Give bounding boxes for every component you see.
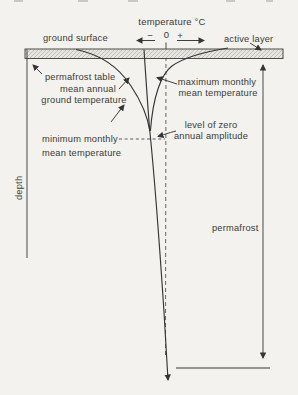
page-crop-marks <box>14 0 273 2</box>
min-monthly-leader-arrow <box>111 105 124 122</box>
zero-label: 0 <box>164 29 169 40</box>
permafrost-table-leader-arrow <box>33 65 42 74</box>
min-monthly-label-line1: minimum monthly <box>42 134 118 144</box>
minus-sign: − <box>147 30 153 41</box>
mean-annual-leader-arrow <box>119 78 129 89</box>
mean-annual-label-line2: ground temperature <box>41 95 126 105</box>
zero-isotherm-dashed-line <box>166 50 167 355</box>
level-zero-label-line1: level of zero <box>185 120 238 130</box>
permafrost-label: permafrost <box>212 223 259 233</box>
temperature-axis-title: temperature °C <box>138 16 205 27</box>
min-monthly-label-line2: mean temperature <box>42 148 121 158</box>
active-layer-label: active layer <box>224 34 273 44</box>
ground-surface-label: ground surface <box>43 33 108 43</box>
mean-annual-label-line1: mean annual <box>60 84 116 94</box>
max-monthly-label-line2: mean temperature <box>178 88 257 98</box>
level-zero-label-line2: annual amplitude <box>174 131 248 141</box>
mean-annual-temperature-line <box>144 50 168 381</box>
permafrost-diagram: temperature °C − 0 + ground surface acti… <box>0 0 298 395</box>
diagram-canvas: temperature °C − 0 + ground surface acti… <box>0 0 298 395</box>
depth-axis-label: depth <box>14 176 24 200</box>
max-monthly-label-line1: maximum monthly <box>178 77 257 87</box>
active-layer-band <box>25 49 283 59</box>
permafrost-table-label: permafrost table <box>45 72 115 82</box>
plus-sign: + <box>177 30 183 41</box>
